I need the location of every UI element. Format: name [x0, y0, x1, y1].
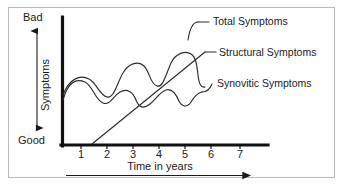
series-label-total: Total Symptoms — [213, 15, 288, 27]
symptom-progression-chart: Bad Good Symptoms 1 2 3 4 5 6 7 Time in … — [0, 0, 343, 190]
x-tick-label-3: 3 — [130, 148, 136, 160]
x-tick-label-1: 1 — [78, 148, 84, 160]
x-tick-label-4: 4 — [156, 148, 162, 160]
series-line-structural — [92, 52, 205, 144]
series-label-synovitic: Synovitic Symptoms — [217, 77, 312, 89]
x-tick-label-5: 5 — [182, 148, 188, 160]
leader-curve-total — [188, 22, 198, 40]
y-axis-title: Symptoms — [39, 59, 51, 111]
leader-curve-synovitic — [202, 84, 212, 92]
x-tick-label-6: 6 — [208, 148, 214, 160]
y-axis-bottom-label: Good — [18, 134, 45, 146]
x-tick-label-2: 2 — [104, 148, 110, 160]
x-axis-title: Time in years — [127, 160, 193, 172]
series-line-synovitic — [63, 81, 202, 107]
y-axis-top-label: Bad — [23, 11, 43, 23]
series-line-total — [63, 52, 205, 97]
series-label-structural: Structural Symptoms — [219, 46, 316, 58]
chart-figure: Bad Good Symptoms 1 2 3 4 5 6 7 Time in … — [0, 0, 343, 190]
x-tick-label-7: 7 — [237, 148, 243, 160]
